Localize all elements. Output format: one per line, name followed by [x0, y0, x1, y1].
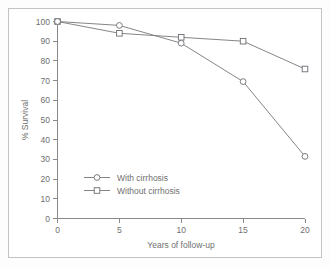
chart-figure: 100 90 80 70 60 50 40 30 20 10 0: [0, 0, 331, 267]
legend-square-icon: [94, 188, 100, 194]
data-point-with-5: [117, 23, 123, 29]
survival-line-chart: 100 90 80 70 60 50 40 30 20 10 0: [0, 0, 331, 267]
y-tick-label-30: 30: [41, 154, 51, 164]
data-point-without-5: [117, 31, 123, 37]
y-tick-label-40: 40: [41, 135, 51, 145]
y-axis-title: % Survival: [20, 100, 30, 140]
y-tick-label-70: 70: [41, 76, 51, 86]
legend-entry-with-cirrhosis[interactable]: With cirrhosis: [84, 173, 168, 183]
y-tick-label-0: 0: [45, 214, 50, 224]
data-point-with-15: [240, 79, 246, 85]
legend-entry-without-cirrhosis[interactable]: Without cirrhosis: [84, 186, 180, 196]
y-tick-label-80: 80: [41, 56, 51, 66]
y-tick-label-20: 20: [41, 174, 51, 184]
data-point-with-0: [55, 19, 61, 25]
data-point-without-15: [240, 38, 246, 44]
data-point-without-20: [302, 66, 308, 72]
y-axis-ticks: 100 90 80 70 60 50 40 30 20 10 0: [36, 17, 58, 224]
data-point-with-10: [178, 40, 184, 46]
x-axis-title: Years of follow-up: [147, 240, 215, 250]
data-point-without-10: [178, 35, 184, 41]
x-tick-label-5: 5: [117, 225, 122, 235]
chart-legend: With cirrhosis Without cirrhosis: [84, 173, 180, 196]
x-tick-label-0: 0: [55, 225, 60, 235]
y-tick-label-50: 50: [41, 115, 51, 125]
y-tick-label-90: 90: [41, 36, 51, 46]
x-axis-ticks: 0 5 10 15 20: [55, 219, 310, 236]
data-point-with-20: [302, 154, 308, 160]
y-tick-label-10: 10: [41, 194, 51, 204]
legend-label-with-cirrhosis: With cirrhosis: [117, 173, 168, 183]
y-tick-label-60: 60: [41, 95, 51, 105]
legend-circle-icon: [94, 175, 100, 181]
x-tick-label-20: 20: [300, 225, 310, 235]
legend-label-without-cirrhosis: Without cirrhosis: [117, 186, 180, 196]
x-tick-label-10: 10: [176, 225, 186, 235]
x-tick-label-15: 15: [238, 225, 248, 235]
y-tick-label-100: 100: [36, 17, 50, 27]
